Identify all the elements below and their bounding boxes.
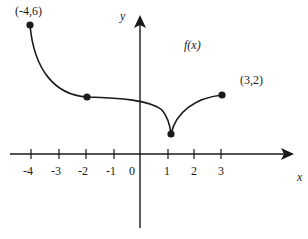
svg-text:3: 3 xyxy=(218,164,224,178)
svg-text:-3: -3 xyxy=(51,164,61,178)
svg-text:0: 0 xyxy=(129,164,135,178)
x-axis-label: x xyxy=(296,170,303,184)
svg-text:2: 2 xyxy=(191,164,197,178)
point-minimum xyxy=(167,130,174,137)
svg-text:1: 1 xyxy=(164,164,170,178)
point-start xyxy=(26,21,33,28)
point-minus-two xyxy=(83,93,90,100)
function-graph: -4 -3 -2 -1 0 1 2 3 x y f(x) (-4,6) (3,2… xyxy=(0,0,308,239)
svg-text:-1: -1 xyxy=(106,164,116,178)
point-end xyxy=(218,91,225,98)
point-label-end: (3,2) xyxy=(240,73,263,87)
svg-text:-4: -4 xyxy=(23,164,33,178)
x-tick-labels: -4 -3 -2 -1 0 1 2 3 xyxy=(23,164,224,178)
y-axis-label: y xyxy=(119,9,126,23)
function-label: f(x) xyxy=(184,38,201,52)
svg-text:-2: -2 xyxy=(78,164,88,178)
point-label-start: (-4,6) xyxy=(15,4,42,18)
